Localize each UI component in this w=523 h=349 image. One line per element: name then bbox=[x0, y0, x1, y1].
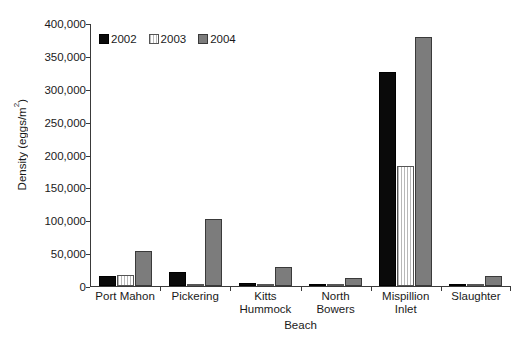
bar-2003[interactable] bbox=[397, 166, 414, 286]
y-axis-tick-mark bbox=[86, 156, 90, 157]
y-axis-tick-label: 250,000 bbox=[44, 117, 86, 129]
x-axis-tick-label: Pickering bbox=[160, 290, 230, 303]
y-axis-tick-label: 350,000 bbox=[44, 51, 86, 63]
legend-swatch-2003 bbox=[149, 34, 159, 44]
y-axis-tick-label: 50,000 bbox=[51, 248, 86, 260]
bar-2003[interactable] bbox=[257, 284, 274, 286]
legend-label-2002: 2002 bbox=[111, 33, 137, 45]
y-axis-tick-mark bbox=[86, 221, 90, 222]
x-axis-tick-label-line2: Hummock bbox=[230, 303, 300, 316]
bar-2004[interactable] bbox=[485, 276, 502, 286]
y-axis-tick-mark bbox=[86, 123, 90, 124]
bar-2004[interactable] bbox=[135, 251, 152, 286]
bar-group bbox=[309, 24, 362, 286]
y-axis-tick-mark bbox=[86, 287, 90, 288]
chart-legend: 200220032004 bbox=[99, 33, 236, 45]
bar-2004[interactable] bbox=[415, 37, 432, 286]
legend-swatch-2004 bbox=[198, 34, 208, 44]
y-axis-tick-label: 300,000 bbox=[44, 84, 86, 96]
bar-2004[interactable] bbox=[275, 267, 292, 286]
y-axis-tick-label: 100,000 bbox=[44, 215, 86, 227]
bar-2003[interactable] bbox=[187, 284, 204, 286]
y-axis-tick-mark bbox=[86, 254, 90, 255]
bar-2003[interactable] bbox=[327, 284, 344, 286]
legend-item-2004[interactable]: 2004 bbox=[198, 33, 236, 45]
bar-2002[interactable] bbox=[239, 283, 256, 286]
x-axis-tick-labels: Port MahonPickeringKittsHummockNorthBowe… bbox=[90, 290, 511, 322]
bar-2002[interactable] bbox=[169, 272, 186, 286]
bar-group bbox=[379, 24, 432, 286]
x-axis-tick-label-line1: North bbox=[322, 290, 350, 302]
legend-swatch-2002 bbox=[99, 34, 109, 44]
x-axis-tick-label-line1: Slaughter bbox=[451, 290, 500, 302]
x-axis-tick-label: Port Mahon bbox=[90, 290, 160, 303]
bar-chart-figure: Density (eggs/m2) 050,000100,000150,0002… bbox=[0, 0, 523, 349]
bar-group bbox=[99, 24, 152, 286]
legend-item-2002[interactable]: 2002 bbox=[99, 33, 137, 45]
x-axis-title: Beach bbox=[90, 319, 511, 331]
y-axis-tick-mark bbox=[86, 24, 90, 25]
bar-2002[interactable] bbox=[99, 276, 116, 286]
y-axis-tick-mark bbox=[86, 57, 90, 58]
x-axis-tick-label-line2: Bowers bbox=[301, 303, 371, 316]
x-axis-tick-label-line2: Inlet bbox=[371, 303, 441, 316]
y-axis-tick-mark bbox=[86, 90, 90, 91]
y-axis-tick-mark bbox=[86, 188, 90, 189]
bar-group bbox=[239, 24, 292, 286]
y-axis-title-superscript: 2 bbox=[12, 103, 21, 107]
x-axis-tick-label-line1: Kitts bbox=[254, 290, 276, 302]
plot-area bbox=[90, 24, 511, 287]
x-axis-tick-label-line1: Pickering bbox=[172, 290, 219, 302]
y-axis-tick-labels: 050,000100,000150,000200,000250,000300,0… bbox=[26, 24, 86, 287]
legend-item-2003[interactable]: 2003 bbox=[149, 33, 187, 45]
bar-2004[interactable] bbox=[345, 278, 362, 286]
x-axis-tick-label-line1: Mispillion bbox=[382, 290, 429, 302]
y-axis-tick-label: 200,000 bbox=[44, 150, 86, 162]
bar-2003[interactable] bbox=[117, 275, 134, 286]
bar-2002[interactable] bbox=[309, 284, 326, 286]
x-axis-tick-label: MispillionInlet bbox=[371, 290, 441, 316]
x-axis-tick-label: Slaughter bbox=[441, 290, 511, 303]
bar-2002[interactable] bbox=[379, 72, 396, 286]
y-axis-tick-label: 150,000 bbox=[44, 182, 86, 194]
y-axis-tick-label: 400,000 bbox=[44, 18, 86, 30]
bar-2002[interactable] bbox=[449, 284, 466, 286]
x-axis-tick-label: NorthBowers bbox=[301, 290, 371, 316]
x-axis-tick-label-line1: Port Mahon bbox=[95, 290, 154, 302]
legend-label-2003: 2003 bbox=[161, 33, 187, 45]
bar-group bbox=[169, 24, 222, 286]
legend-label-2004: 2004 bbox=[210, 33, 236, 45]
y-axis-line bbox=[90, 24, 91, 287]
bar-group bbox=[449, 24, 502, 286]
bar-2004[interactable] bbox=[205, 219, 222, 286]
bar-2003[interactable] bbox=[467, 284, 484, 286]
x-axis-tick-label: KittsHummock bbox=[230, 290, 300, 316]
